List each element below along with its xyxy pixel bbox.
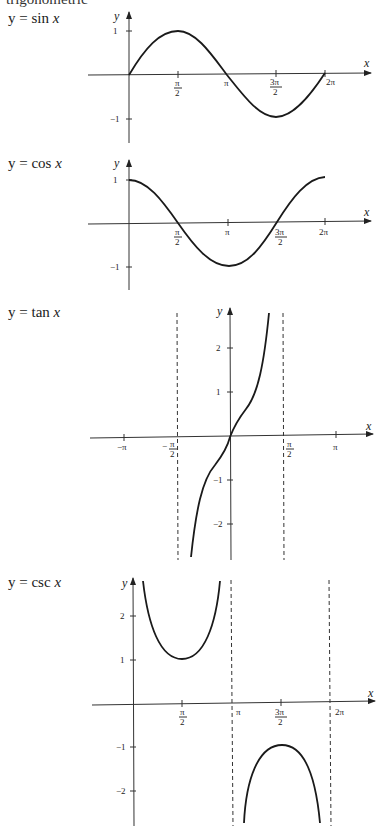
csc-curve-lower bbox=[244, 745, 320, 823]
y-tick-label: 1 bbox=[113, 26, 118, 36]
y-tick-label: 1 bbox=[113, 175, 118, 185]
svg-text:π: π bbox=[180, 707, 185, 717]
svg-text:2: 2 bbox=[278, 717, 283, 727]
tan-graph: x y 2 1 −1 −2 −π −π2 π2 π bbox=[90, 304, 373, 560]
svg-text:2: 2 bbox=[287, 449, 292, 459]
svg-text:2: 2 bbox=[175, 88, 180, 98]
svg-text:3π: 3π bbox=[275, 227, 285, 237]
svg-text:π: π bbox=[333, 442, 338, 452]
svg-text:3π: 3π bbox=[270, 77, 280, 87]
y-axis bbox=[133, 578, 134, 826]
asymptote bbox=[329, 580, 331, 826]
svg-text:2π: 2π bbox=[335, 707, 345, 717]
svg-text:2: 2 bbox=[180, 717, 185, 727]
y-tick-label: 1 bbox=[120, 655, 125, 665]
x-tick-label: −π bbox=[117, 442, 127, 452]
svg-text:3π: 3π bbox=[275, 707, 285, 717]
y-tick-label: −1 bbox=[213, 475, 223, 485]
x-axis-label: x bbox=[365, 419, 372, 433]
x-axis-label: x bbox=[363, 56, 370, 70]
y-axis-label: y bbox=[121, 576, 128, 590]
x-axis-label: x bbox=[367, 686, 374, 700]
trig-graphs-canvas: x y 1 −1 π2 π 3π2 2π x y 1 −1 π2 π 3π2 2… bbox=[0, 0, 391, 833]
y-tick-label: −2 bbox=[213, 519, 223, 529]
asymptote bbox=[283, 313, 284, 560]
svg-text:2: 2 bbox=[273, 87, 278, 97]
svg-text:π: π bbox=[175, 78, 180, 88]
svg-text:π: π bbox=[236, 707, 241, 717]
y-tick-label: −1 bbox=[110, 262, 120, 272]
svg-text:π: π bbox=[175, 227, 180, 237]
y-tick-label: 1 bbox=[216, 387, 221, 397]
svg-text:2: 2 bbox=[170, 449, 175, 459]
svg-text:π: π bbox=[224, 78, 229, 88]
csc-curve-upper bbox=[143, 581, 220, 659]
y-tick-label: −2 bbox=[116, 786, 126, 796]
y-tick-label: −1 bbox=[116, 742, 126, 752]
svg-text:2π: 2π bbox=[319, 227, 329, 237]
y-axis-label: y bbox=[113, 156, 120, 170]
svg-text:π: π bbox=[170, 439, 175, 449]
cos-graph: x y 1 −1 π2 π 3π2 2π bbox=[88, 156, 371, 290]
y-tick-label: 2 bbox=[216, 343, 221, 353]
y-tick-label: 2 bbox=[120, 611, 125, 621]
csc-graph: x y 2 1 −1 −2 π2 π 3π2 2π bbox=[92, 576, 375, 826]
svg-text:−: − bbox=[162, 441, 167, 451]
x-axis bbox=[92, 701, 375, 705]
svg-text:π: π bbox=[287, 439, 292, 449]
sin-graph: x y 1 −1 π2 π 3π2 2π bbox=[88, 9, 371, 143]
y-axis-label: y bbox=[113, 9, 120, 23]
svg-text:2π: 2π bbox=[326, 77, 336, 87]
svg-text:2: 2 bbox=[278, 237, 283, 247]
x-axis bbox=[88, 221, 371, 224]
y-axis-label: y bbox=[216, 304, 223, 318]
svg-text:2: 2 bbox=[175, 237, 180, 247]
y-tick-label: −1 bbox=[110, 114, 120, 124]
svg-text:π: π bbox=[225, 227, 230, 237]
x-axis-label: x bbox=[363, 205, 370, 219]
